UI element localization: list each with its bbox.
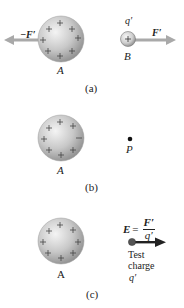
panel-b [38,115,132,161]
caption-a: (a) [85,83,97,94]
test-charge-sphere-b-icon [121,32,136,47]
test-charge-label: q′ [125,16,132,26]
caption-c: (c) [86,289,98,300]
field-point-p-icon [128,137,133,142]
caption-b: (b) [85,182,98,193]
charged-sphere-a-icon [38,218,84,264]
force-on-a-label: −F′ [20,30,36,40]
test-charge-text-line1: Test [128,250,145,260]
figure-canvas [0,0,184,308]
equation-equals: = [132,223,138,235]
sphere-a-label: A [57,165,64,176]
sphere-b-label: B [124,51,131,62]
charged-sphere-a-icon [38,115,84,161]
sphere-a-label: A [57,65,64,76]
equation-lhs: E [123,223,130,235]
test-charge-text-line2: charge [128,261,154,271]
charged-sphere-a-icon [38,16,84,62]
equation-numerator: F′ [143,217,155,230]
point-p-label: P [126,144,133,155]
test-charge-symbol: q′ [129,273,136,283]
field-equation: E = F′ q′ [123,217,155,241]
sphere-a-label: A [57,269,65,280]
force-on-b-label: F′ [152,28,161,38]
equation-denominator: q′ [145,230,153,242]
